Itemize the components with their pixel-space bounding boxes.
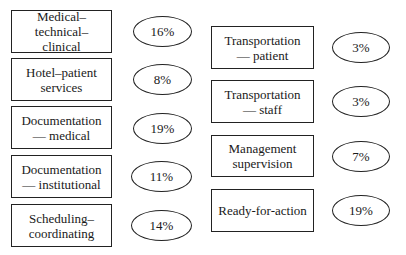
- percent-value: 3%: [352, 94, 369, 110]
- category-box-scheduling-coordinating: Scheduling– coordinating: [11, 204, 112, 247]
- percent-oval-transportation-staff: 3%: [332, 86, 390, 117]
- percent-oval-hotel-patient-services: 8%: [133, 64, 192, 95]
- percent-oval-documentation-institutional: 11%: [131, 161, 192, 192]
- category-box-transportation-patient: Transportation — patient: [211, 26, 314, 69]
- percent-value: 19%: [349, 203, 373, 219]
- category-label: Management supervision: [229, 141, 297, 171]
- category-box-documentation-medical: Documentation — medical: [11, 106, 112, 149]
- percent-oval-transportation-patient: 3%: [332, 32, 390, 63]
- category-label: Documentation — medical: [21, 113, 101, 143]
- category-label: Transportation — patient: [224, 33, 300, 63]
- percent-oval-scheduling-coordinating: 14%: [131, 210, 192, 241]
- category-box-management-supervision: Management supervision: [211, 135, 314, 177]
- category-box-documentation-institutional: Documentation — institutional: [11, 155, 112, 198]
- category-label: Transportation — staff: [224, 87, 300, 117]
- percent-value: 7%: [352, 149, 369, 165]
- percent-oval-management-supervision: 7%: [332, 141, 390, 172]
- percent-value: 8%: [154, 72, 171, 88]
- category-label: Documentation — institutional: [21, 162, 101, 192]
- percent-oval-medical-technical-clinical: 16%: [133, 16, 192, 47]
- category-box-hotel-patient-services: Hotel–patient services: [11, 58, 112, 101]
- category-label: Scheduling– coordinating: [29, 211, 95, 241]
- category-box-ready-for-action: Ready-for-action: [211, 189, 314, 232]
- category-box-medical-technical-clinical: Medical–technical– clinical: [11, 10, 112, 53]
- percent-value: 14%: [150, 218, 174, 234]
- category-label: Ready-for-action: [218, 203, 307, 218]
- percent-oval-ready-for-action: 19%: [332, 195, 390, 226]
- category-box-transportation-staff: Transportation — staff: [211, 80, 314, 123]
- percent-value: 16%: [151, 24, 175, 40]
- percent-value: 3%: [352, 40, 369, 56]
- percent-oval-documentation-medical: 19%: [133, 113, 192, 144]
- category-label: Hotel–patient services: [26, 65, 97, 95]
- category-label: Medical–technical– clinical: [12, 9, 111, 54]
- percent-value: 11%: [150, 169, 173, 185]
- percent-value: 19%: [151, 121, 175, 137]
